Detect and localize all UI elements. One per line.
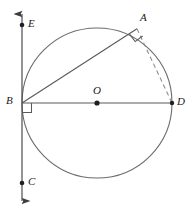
label-point-B: B — [6, 95, 13, 106]
geometry-figure: A B C D E O — [0, 0, 194, 213]
label-point-O: O — [93, 85, 101, 96]
label-point-C: C — [28, 176, 35, 187]
right-angle-marker-A — [130, 34, 143, 42]
point-dot-O — [94, 100, 99, 105]
segment-AD — [137, 29, 172, 103]
right-angle-marker-B — [22, 103, 32, 113]
label-point-D: D — [177, 96, 185, 107]
segment-BA — [22, 29, 137, 103]
point-dot-E — [20, 23, 25, 28]
label-point-A: A — [140, 12, 147, 23]
point-dot-C — [20, 181, 25, 186]
label-point-E: E — [28, 18, 35, 29]
point-dot-D — [170, 101, 174, 105]
